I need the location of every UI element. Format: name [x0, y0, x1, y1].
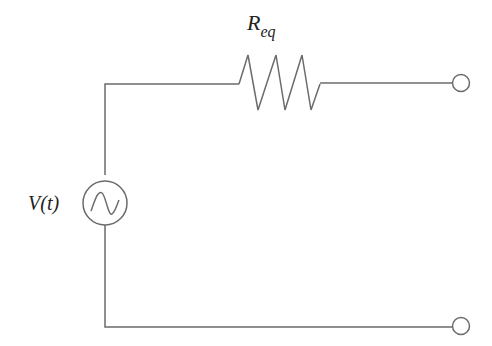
- resistor-label: Req: [246, 10, 276, 41]
- ac-source-circle: [83, 181, 127, 225]
- resistor-label-main: R: [246, 10, 261, 35]
- top-left-wire: [105, 84, 239, 175]
- source-label: V(t): [28, 192, 59, 215]
- resistor-label-sub: eq: [260, 23, 275, 41]
- bottom-wire: [105, 225, 452, 327]
- sine-wave-icon: [91, 192, 119, 214]
- bottom-terminal: [453, 318, 470, 335]
- circuit-diagram: V(t) Req: [0, 0, 492, 346]
- top-terminal: [453, 75, 470, 92]
- resistor-symbol: [239, 55, 320, 110]
